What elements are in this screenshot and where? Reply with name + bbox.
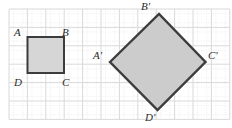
label-c-prime: C'	[208, 50, 218, 61]
label-c: C	[62, 77, 69, 88]
diamond-a-prime-b-prime-c-prime-d-prime	[110, 14, 206, 110]
label-a: A	[14, 27, 21, 38]
square-abcd	[28, 37, 65, 73]
label-d: D	[14, 77, 22, 88]
geometry-figure: A B C D A' B' C' D'	[0, 0, 232, 128]
label-a-prime: A'	[93, 50, 102, 61]
label-d-prime: D'	[145, 112, 155, 123]
shapes-overlay	[0, 0, 232, 128]
label-b: B	[62, 27, 69, 38]
label-b-prime: B'	[141, 1, 150, 12]
